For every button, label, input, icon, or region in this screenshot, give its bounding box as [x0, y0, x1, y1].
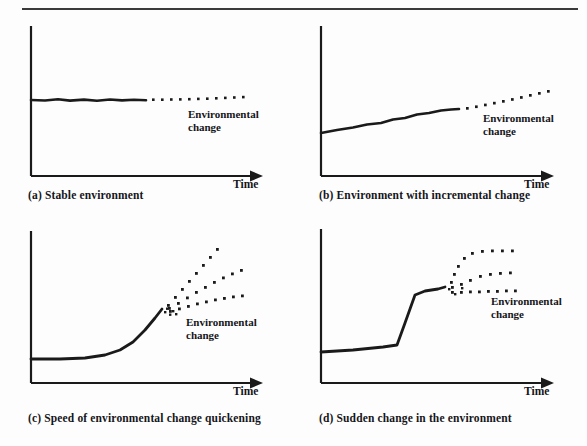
x-axis-label: Time: [524, 385, 549, 397]
annotation-line-2: change: [491, 308, 562, 321]
annotation-environmental-change: Environmental change: [188, 108, 259, 133]
series-projection-mid: [168, 269, 243, 310]
series-projection: [152, 96, 245, 101]
series-historical: [321, 109, 459, 133]
annotation-line-2: change: [188, 121, 259, 134]
series-projection-low: [169, 295, 244, 313]
chart-plot-a: [0, 0, 293, 190]
series-projection-low: [451, 290, 517, 294]
chart-panel-c: Environmental change Time (c) Speed of e…: [0, 223, 293, 446]
panel-caption-a: (a) Stable environment: [28, 189, 144, 201]
annotation-line-1: Environmental: [186, 316, 257, 328]
chart-plot-b: [293, 0, 586, 190]
series-projection: [466, 90, 550, 110]
annotation-environmental-change: Environmental change: [491, 295, 562, 320]
series-projection-high: [450, 250, 514, 284]
x-axis-label: Time: [233, 178, 258, 190]
series-historical: [31, 99, 146, 101]
annotation-line-2: change: [186, 329, 257, 342]
panel-caption-b: (b) Environment with incremental change: [319, 189, 530, 201]
annotation-line-1: Environmental: [188, 108, 259, 120]
series-projection-high: [167, 248, 219, 307]
annotation-line-2: change: [483, 125, 554, 138]
series-projection-mid: [451, 272, 512, 289]
annotation-environmental-change: Environmental change: [483, 112, 554, 137]
chart-panel-b: Environmental change Time (b) Environmen…: [293, 0, 586, 223]
chart-panel-d: Environmental change Time (d) Sudden cha…: [293, 223, 586, 446]
panel-caption-d: (d) Sudden change in the environment: [319, 412, 512, 424]
panel-caption-c: (c) Speed of environmental change quicke…: [28, 412, 261, 424]
x-axis-label: Time: [233, 385, 258, 397]
annotation-line-1: Environmental: [483, 112, 554, 124]
annotation-line-1: Environmental: [491, 295, 562, 307]
annotation-environmental-change: Environmental change: [186, 316, 257, 341]
series-historical: [321, 287, 445, 352]
series-historical: [31, 309, 162, 359]
chart-panel-a: Environmental change Time (a) Stable env…: [0, 0, 293, 223]
figure-page: Environmental change Time (a) Stable env…: [0, 0, 587, 446]
